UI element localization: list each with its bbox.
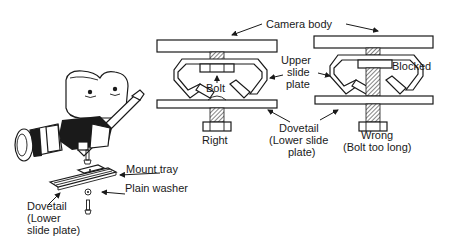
label-upper-3: plate	[286, 78, 310, 90]
reel-hub-icon	[113, 87, 117, 91]
label-camera-body: Camera body	[266, 18, 333, 30]
label-dovetail-left-3: slide plate)	[27, 224, 80, 236]
diagram-wrong-config: Blocked Wrong (Bolt too long)	[314, 36, 433, 153]
label-upper-2: slide	[287, 66, 310, 78]
camera-body-plate	[157, 40, 277, 52]
dovetail-lower-plate	[315, 96, 433, 104]
label-dovetail-center-3: plate)	[288, 146, 316, 158]
mount-screw-bottom	[85, 200, 91, 214]
label-blocked: Blocked	[392, 60, 431, 72]
label-plain-washer: Plain washer	[125, 182, 188, 194]
mount-tray-plate	[50, 165, 116, 190]
label-wrong: Wrong	[361, 129, 393, 141]
label-dovetail-left-1: Dovetail	[27, 200, 67, 212]
label-right: Right	[202, 134, 228, 146]
label-wrong-sub: (Bolt too long)	[343, 141, 411, 153]
reel-hub-icon	[88, 90, 92, 94]
label-upper-1: Upper	[281, 54, 311, 66]
camera-body-plate	[314, 36, 433, 48]
label-mount-tray: Mount tray	[126, 163, 178, 175]
label-dovetail-center-1: Dovetail	[279, 122, 319, 134]
camera-mount-diagram: Mount tray Plain washer Dovetail (Lower …	[0, 0, 455, 247]
label-bolt: Bolt	[206, 82, 225, 94]
camera-illustration	[15, 71, 144, 161]
label-dovetail-center-2: (Lower slide	[269, 134, 328, 146]
diagram-right-config: Bolt Right	[157, 40, 277, 146]
dovetail-lower-plate	[157, 100, 277, 108]
long-bolt	[366, 68, 380, 96]
label-dovetail-left-2: (Lower	[27, 212, 61, 224]
